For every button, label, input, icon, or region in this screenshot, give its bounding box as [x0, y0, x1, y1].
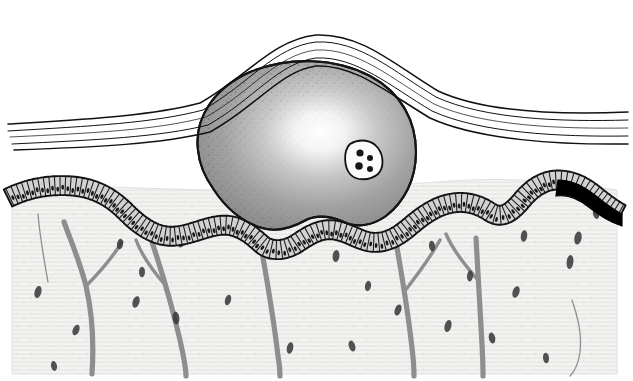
epithelial-cell-wall	[373, 233, 374, 252]
giant-cell-nucleus	[367, 155, 373, 161]
giant-cell-outline	[345, 141, 382, 180]
fibroblast-nucleus	[139, 267, 145, 277]
giant-cell-nucleus	[355, 162, 363, 170]
histology-figure	[0, 0, 633, 381]
giant-cell-nucleus	[356, 149, 363, 156]
illustration-canvas: Histologic cross-section illustration of…	[0, 0, 633, 381]
giant-cell-inclusion	[345, 141, 382, 180]
epithelial-cell-wall	[461, 193, 462, 212]
epithelial-cell-wall	[276, 240, 277, 259]
epithelial-cell-wall	[65, 176, 66, 195]
giant-cell-nucleus	[367, 166, 373, 172]
